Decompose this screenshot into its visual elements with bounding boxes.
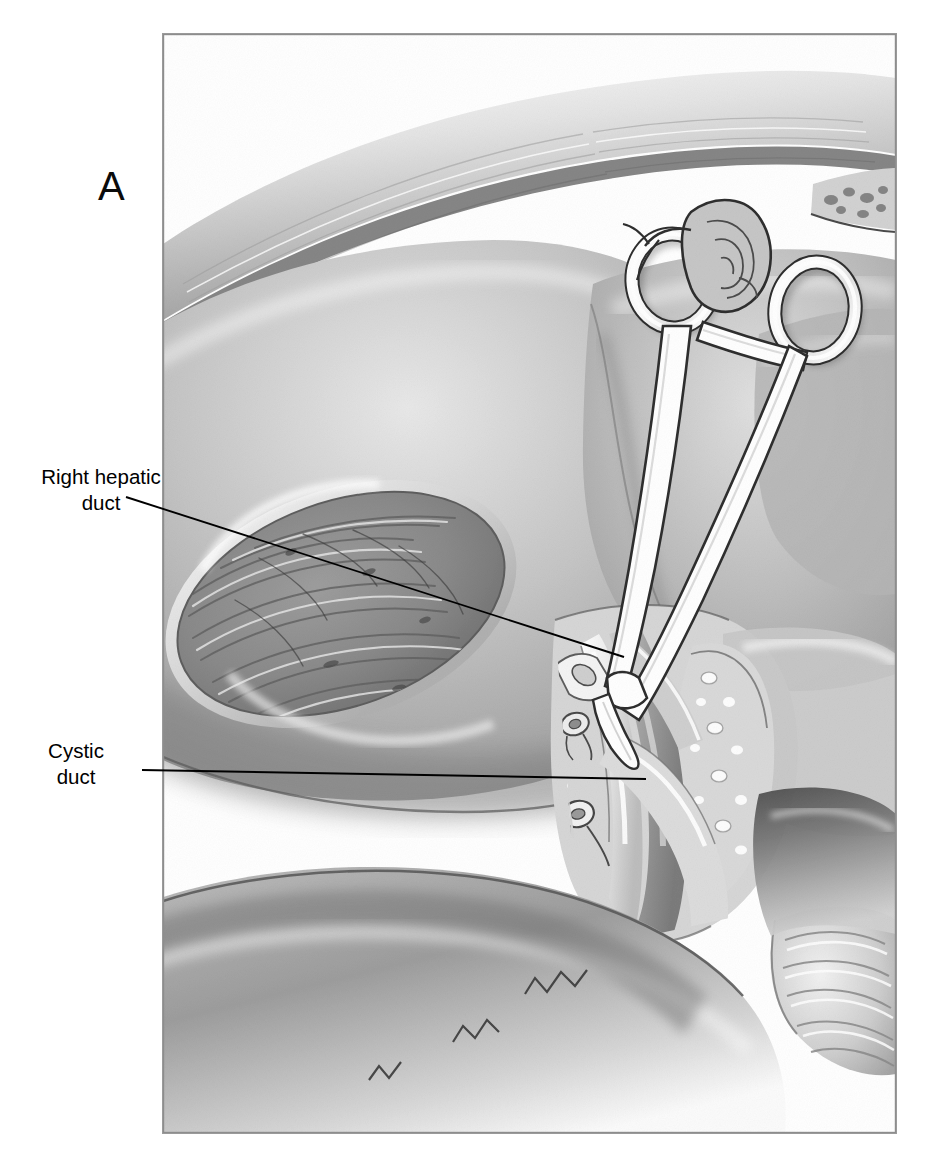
illustration-frame [163, 34, 896, 1133]
illustration-canvas [163, 34, 896, 1133]
label-cystic-duct: Cystic duct [10, 738, 142, 790]
panel-letter: A [98, 166, 125, 206]
figure-root: A Right hepatic duct Cystic duct [0, 0, 933, 1162]
label-right-hepatic-duct: Right hepatic duct [31, 464, 171, 516]
structure-duodenum-descending [753, 788, 896, 936]
